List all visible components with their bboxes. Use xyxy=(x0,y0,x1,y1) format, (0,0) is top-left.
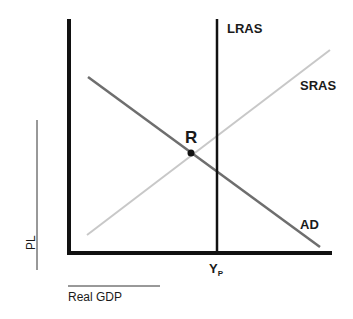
sras-curve xyxy=(87,50,330,235)
lras-label: LRAS xyxy=(227,21,263,36)
ad-curve xyxy=(88,77,320,247)
yp-label: YP xyxy=(209,261,224,278)
yp-main: Y xyxy=(209,261,218,276)
equilibrium-point-r xyxy=(188,150,195,157)
ad-label: AD xyxy=(300,217,319,232)
y-axis-label: PL xyxy=(24,235,38,250)
yp-subscript: P xyxy=(218,269,224,278)
ad-as-diagram: LRAS SRAS AD R YP PL Real GDP xyxy=(0,0,353,319)
x-axis-label: Real GDP xyxy=(68,290,122,304)
point-r-label: R xyxy=(185,128,197,147)
sras-label: SRAS xyxy=(300,78,336,93)
